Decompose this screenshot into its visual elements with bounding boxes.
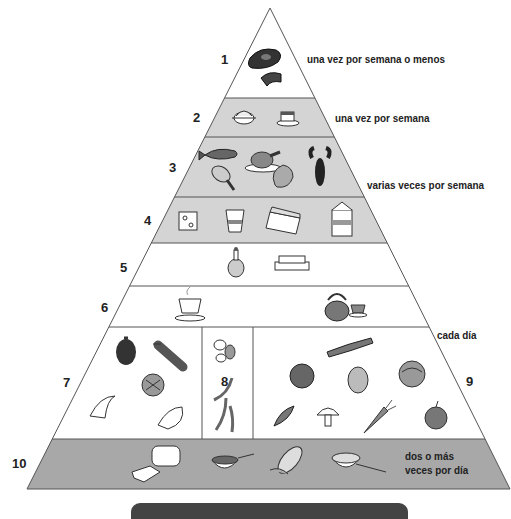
tier-4-number: 4 bbox=[144, 213, 151, 228]
cabbage-icon bbox=[399, 361, 425, 387]
tier-10-frequency-line1: dos o más bbox=[405, 449, 454, 463]
tier-3-frequency: varias veces por semana bbox=[367, 178, 484, 192]
tier-2-frequency: una vez por semana bbox=[335, 111, 430, 125]
butter-dish-icon bbox=[275, 256, 309, 270]
tier-3-number: 3 bbox=[169, 160, 176, 175]
tier-5-number: 5 bbox=[120, 260, 127, 275]
tier-1-frequency: una vez por semana o menos bbox=[307, 52, 445, 66]
tier-7-number: 7 bbox=[63, 375, 70, 390]
tier-1-number: 1 bbox=[221, 52, 228, 67]
tier-10-number: 10 bbox=[12, 456, 26, 471]
tier-5-band bbox=[0, 243, 511, 286]
tier-6-number: 6 bbox=[101, 300, 108, 315]
tier-10-frequency-line2: veces por día bbox=[405, 463, 468, 477]
tomato-icon bbox=[290, 364, 314, 388]
tier-9-number: 9 bbox=[466, 374, 473, 389]
cheese-icon bbox=[179, 212, 197, 230]
tier-1-band bbox=[0, 0, 511, 98]
yogurt-cup-icon bbox=[226, 210, 244, 232]
tier-8-number: 8 bbox=[221, 374, 228, 389]
tier-2-number: 2 bbox=[193, 110, 200, 125]
tier-7-9-frequency: cada día bbox=[437, 328, 477, 342]
bottom-dark-bar bbox=[131, 503, 408, 519]
tier-6-band bbox=[0, 286, 511, 327]
orange-half-icon bbox=[142, 374, 164, 396]
milk-carton-icon bbox=[332, 202, 352, 236]
tier-4-band bbox=[0, 197, 511, 243]
potato-icon bbox=[348, 367, 368, 393]
